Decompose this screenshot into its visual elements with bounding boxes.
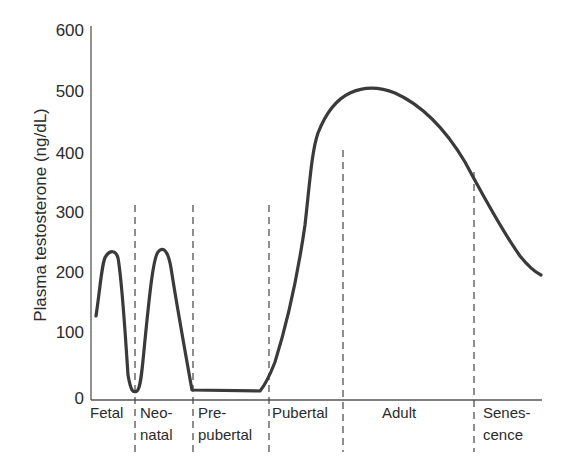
testosterone-lifespan-chart: 600 500 400 300 200 100 0 Plasma testost… bbox=[0, 0, 577, 473]
y-tick-100: 100 bbox=[56, 323, 84, 342]
y-tick-300: 300 bbox=[56, 203, 84, 222]
phase-label-prepubertal-1: Pre- bbox=[198, 404, 226, 421]
phase-label-adult: Adult bbox=[382, 404, 417, 421]
phase-label-neonatal-1: Neo- bbox=[140, 404, 173, 421]
phase-label-senescence-1: Senes- bbox=[483, 404, 531, 421]
y-tick-600: 600 bbox=[56, 21, 84, 40]
phase-label-fetal: Fetal bbox=[90, 404, 123, 421]
y-tick-0: 0 bbox=[75, 389, 84, 408]
phase-label-senescence-2: cence bbox=[483, 426, 523, 443]
y-tick-200: 200 bbox=[56, 263, 84, 282]
y-tick-400: 400 bbox=[56, 144, 84, 163]
phase-label-pubertal: Pubertal bbox=[272, 404, 328, 421]
y-axis-label: Plasma testosterone (ng/dL) bbox=[31, 108, 50, 322]
phase-label-neonatal-2: natal bbox=[140, 426, 173, 443]
y-tick-500: 500 bbox=[56, 82, 84, 101]
phase-label-prepubertal-2: pubertal bbox=[198, 426, 252, 443]
